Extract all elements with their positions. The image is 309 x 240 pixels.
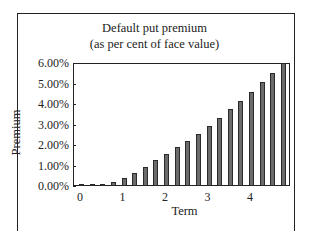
bar bbox=[238, 101, 243, 186]
bar bbox=[132, 173, 137, 186]
bar bbox=[164, 154, 169, 186]
plot-area bbox=[73, 63, 290, 186]
bar bbox=[260, 82, 265, 186]
bar bbox=[100, 184, 105, 186]
x-axis-label: Term bbox=[0, 204, 309, 219]
chart-subtitle: (as per cent of face value) bbox=[0, 37, 309, 52]
y-tick-label: 1.00% bbox=[38, 160, 69, 172]
y-tick-label: 4.00% bbox=[38, 98, 69, 110]
bar bbox=[281, 63, 286, 186]
y-tick-label: 5.00% bbox=[38, 78, 69, 90]
bar bbox=[249, 92, 254, 186]
chart-title: Default put premium bbox=[0, 21, 309, 36]
y-axis-label: Premium bbox=[9, 103, 24, 163]
bar bbox=[175, 147, 180, 186]
bar bbox=[270, 73, 275, 186]
y-tick-label: 3.00% bbox=[38, 119, 69, 131]
bar bbox=[217, 118, 222, 186]
x-tick-label: 1 bbox=[113, 190, 133, 205]
bar bbox=[90, 184, 95, 186]
y-tick-label: 6.00% bbox=[38, 57, 69, 69]
bar bbox=[143, 167, 148, 186]
y-tick-mark bbox=[73, 186, 76, 187]
x-tick-label: 0 bbox=[70, 190, 90, 205]
bar bbox=[153, 160, 158, 186]
y-tick-label: 2.00% bbox=[38, 139, 69, 151]
x-tick-label: 4 bbox=[240, 190, 260, 205]
bar bbox=[111, 182, 116, 186]
bar bbox=[196, 134, 201, 186]
bar bbox=[185, 141, 190, 186]
y-tick-label: 0.00% bbox=[38, 180, 69, 192]
bar bbox=[122, 178, 127, 186]
bar bbox=[207, 126, 212, 186]
x-tick-label: 2 bbox=[155, 190, 175, 205]
x-tick-label: 3 bbox=[198, 190, 218, 205]
bar bbox=[228, 109, 233, 186]
bar bbox=[79, 184, 84, 186]
